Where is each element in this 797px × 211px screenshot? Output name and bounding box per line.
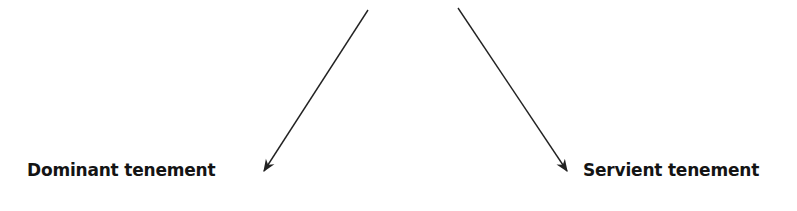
dominant-tenement-label: Dominant tenement	[27, 160, 215, 180]
arrow-to-dominant	[264, 10, 368, 171]
servient-tenement-label: Servient tenement	[583, 160, 759, 180]
arrow-to-servient	[458, 8, 567, 171]
